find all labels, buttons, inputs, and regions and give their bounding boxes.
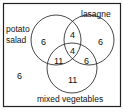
mixed-vegetables-label: mixed vegetables: [37, 94, 103, 104]
potato-mixed-count: 11: [54, 56, 63, 66]
potato-label: potato: [6, 24, 30, 34]
potato-only-count: 6: [41, 37, 46, 47]
lasagne-label: lasagne: [81, 9, 111, 19]
potato-lasagne-count: 4: [70, 30, 75, 40]
lasagne-only-count: 6: [98, 37, 103, 47]
mixed-only-count: 11: [68, 75, 77, 85]
venn-diagram: potato salad lasagne mixed vegetables 6 …: [0, 0, 123, 112]
all-three-count: 4: [70, 46, 75, 56]
lasagne-mixed-count: 6: [84, 56, 89, 66]
salad-label: salad: [6, 35, 27, 45]
none-count: 6: [17, 71, 22, 81]
